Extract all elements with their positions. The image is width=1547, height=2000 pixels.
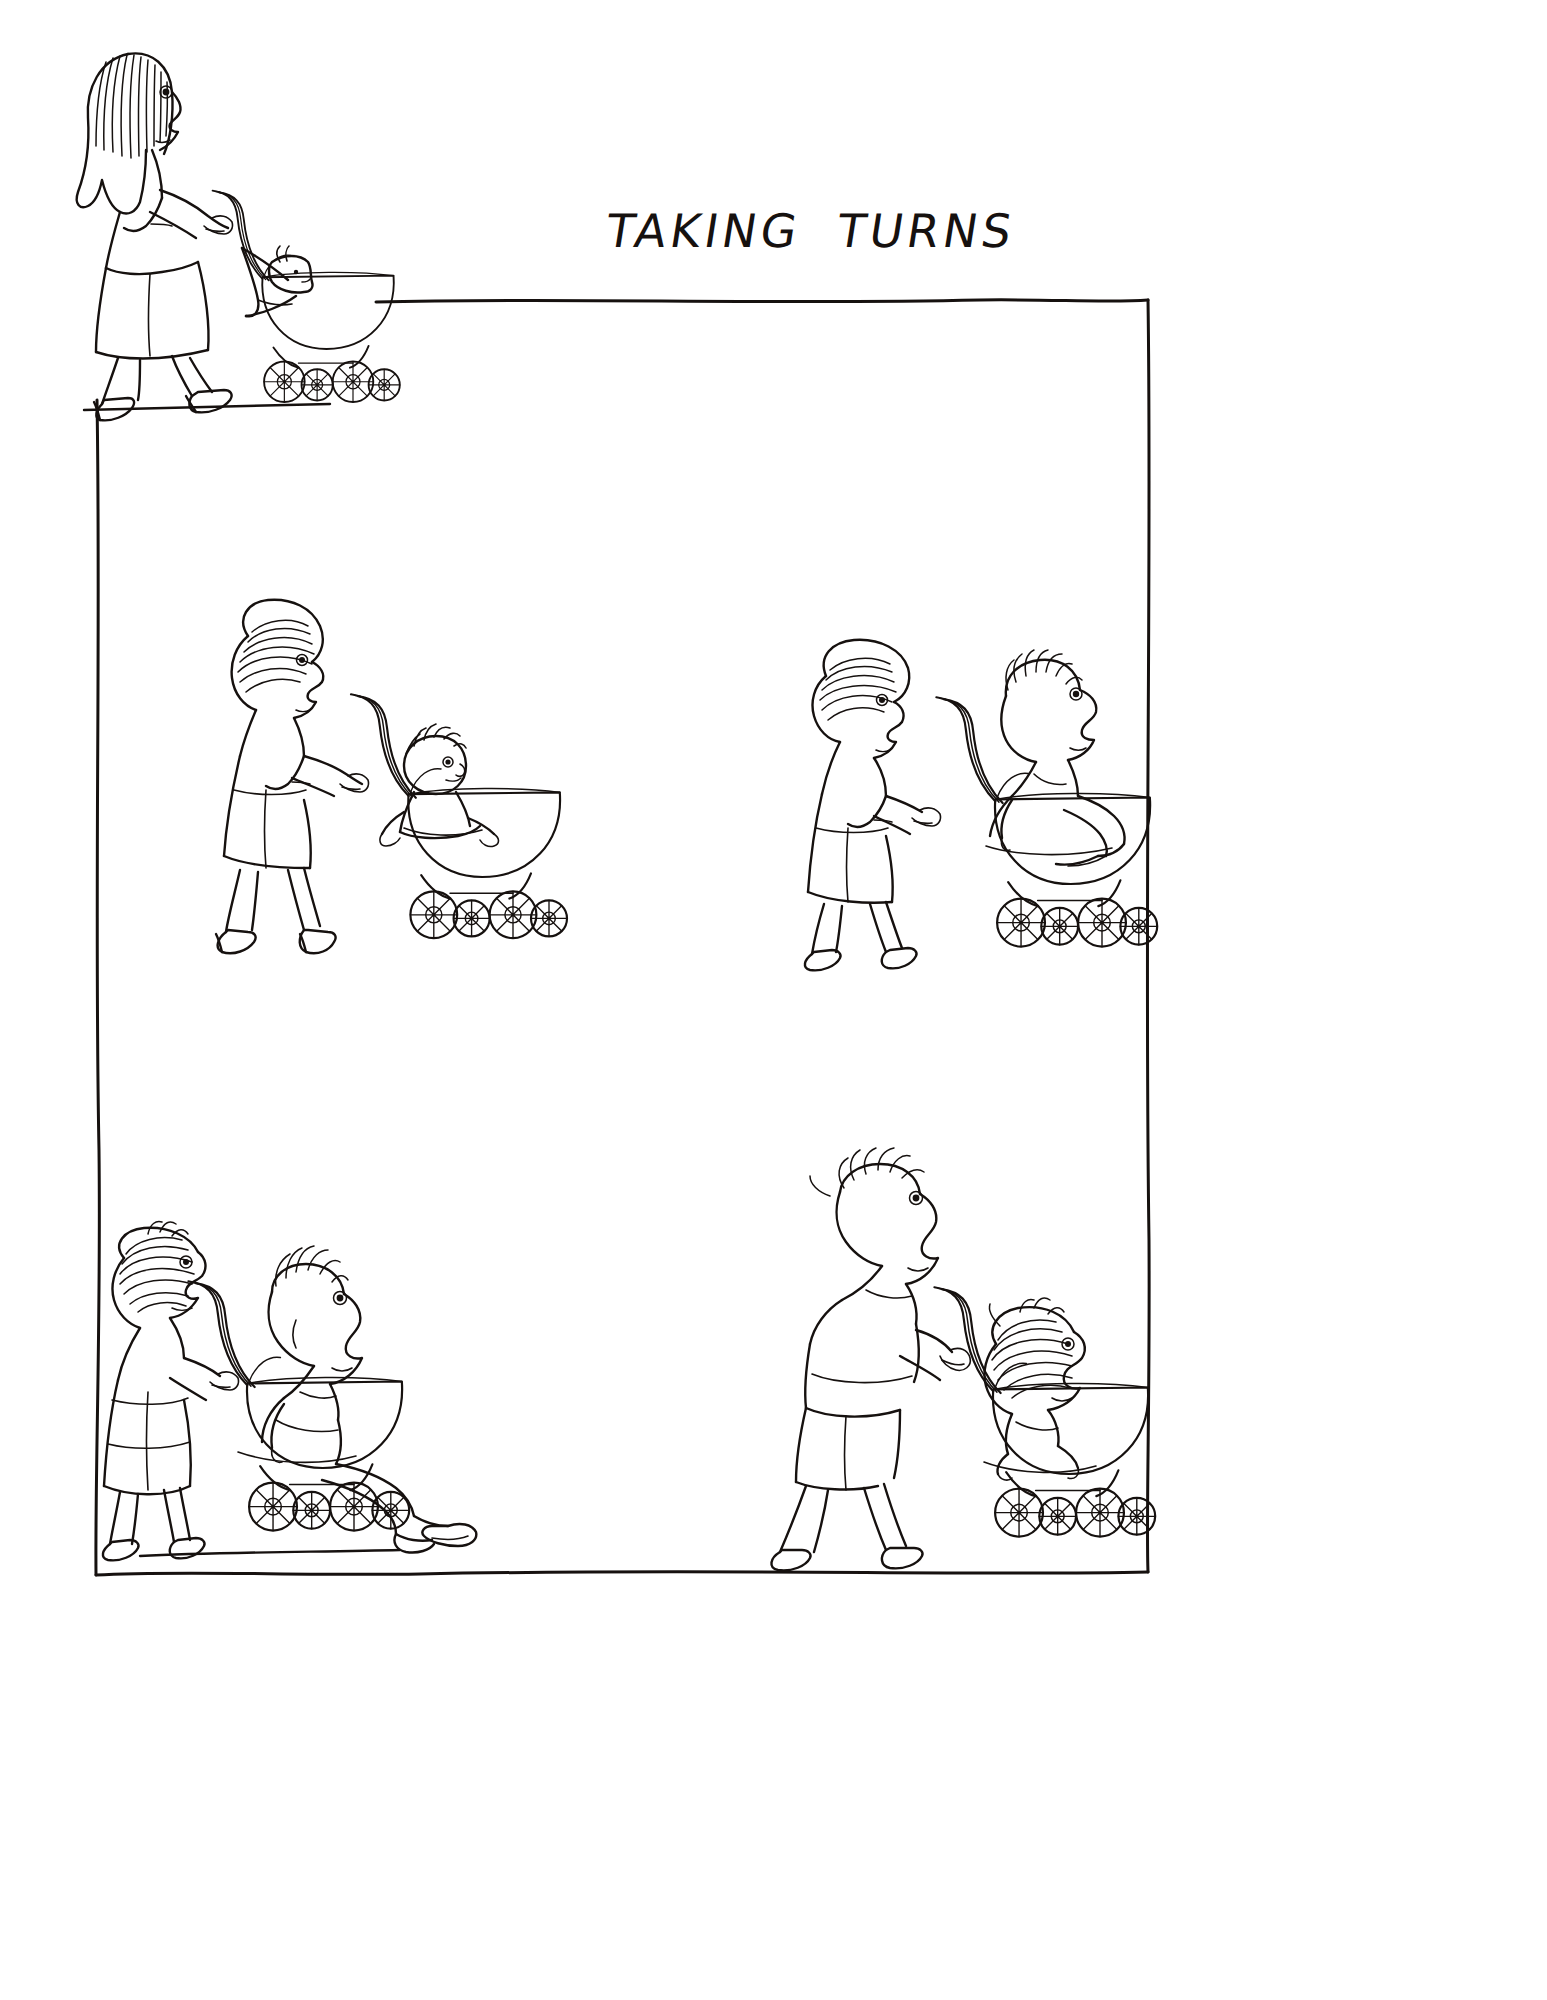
panel-4-scene <box>103 1222 476 1561</box>
panel-1-scene <box>77 53 400 420</box>
panel-4-mother <box>103 1222 239 1561</box>
panel-2-mother <box>216 600 369 954</box>
panel-3-mother <box>805 640 941 971</box>
panel-5-scene <box>771 1148 1155 1570</box>
panel-2-child <box>380 724 499 847</box>
panel-2-pram <box>351 694 567 938</box>
panel-3-pram <box>936 697 1157 946</box>
panel-5-pram <box>934 1287 1155 1536</box>
illustration-page: .ink { fill:none; stroke:#16110f; stroke… <box>0 0 1547 2000</box>
panel-5-son <box>771 1148 970 1570</box>
panel-3-scene <box>805 640 1157 971</box>
panel-1-mother <box>77 53 233 420</box>
panel-1-pram <box>213 191 400 402</box>
panel-2-scene <box>216 600 567 954</box>
panel-3-son <box>986 650 1125 866</box>
panel-4-pram <box>188 1281 409 1530</box>
cartoon-artwork: .ink { fill:none; stroke:#16110f; stroke… <box>0 0 1547 2000</box>
